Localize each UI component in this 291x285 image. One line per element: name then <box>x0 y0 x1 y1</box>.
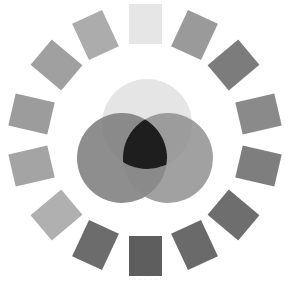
color-wheel-diagram: · · · · · <box>0 0 291 285</box>
overlapping-circles <box>0 0 291 285</box>
caption: · · · · · <box>0 276 291 282</box>
